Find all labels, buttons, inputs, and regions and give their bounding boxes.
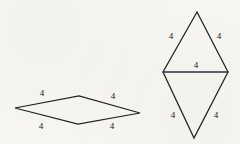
tall-rhombus-label-lower-right: 4 [214,110,219,120]
tall-rhombus-label-upper-left: 4 [169,31,174,41]
flat-rhombus-outline [15,96,140,124]
tall-rhombus-label-upper-right: 4 [217,31,222,41]
flat-rhombus-figure: 4 4 4 4 [15,88,140,131]
flat-rhombus-label-top-left: 4 [40,88,45,98]
flat-rhombus-label-top-right: 4 [111,91,116,101]
flat-rhombus-label-bottom-right: 4 [110,121,115,131]
geometry-figure-canvas: 4 4 4 4 4 4 4 4 4 [0,0,240,144]
tall-rhombus-figure: 4 4 4 4 4 [163,12,228,138]
tall-rhombus-label-diagonal: 4 [194,60,199,70]
tall-rhombus-label-lower-left: 4 [171,110,176,120]
flat-rhombus-label-bottom-left: 4 [39,121,44,131]
